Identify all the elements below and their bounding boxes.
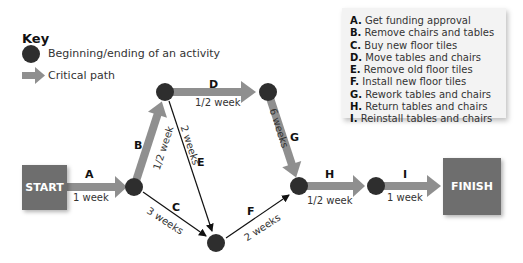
arrow-h xyxy=(307,175,365,197)
activity-d-duration: 1/2 week xyxy=(195,97,241,108)
node-3 xyxy=(259,83,277,101)
legend-item-i: I. Reinstall tables and chairs xyxy=(350,113,494,125)
activity-h-duration: 1/2 week xyxy=(307,195,353,206)
legend-item-g: G. Rework tables and chairs xyxy=(350,89,494,101)
legend-item-f: F. Install new floor tiles xyxy=(350,76,494,88)
legend-item-d: D. Move tables and chairs xyxy=(350,52,494,64)
node-2 xyxy=(156,83,174,101)
legend-item-c: C. Buy new floor tiles xyxy=(350,40,494,52)
legend-item-a: A. Get funding approval xyxy=(350,15,494,27)
activity-c-label: C xyxy=(172,201,180,214)
legend-item-e: E. Remove old floor tiles xyxy=(350,64,494,76)
key-title: Key xyxy=(22,31,49,46)
key-node-label: Beginning/ending of an activity xyxy=(48,47,220,60)
finish-box: FINISH xyxy=(443,158,501,215)
legend-item-b: B. Remove chairs and tables xyxy=(350,27,494,39)
key-node-icon xyxy=(22,45,40,63)
node-4 xyxy=(290,177,308,195)
activity-f-label: F xyxy=(247,205,255,218)
activity-a-label: A xyxy=(85,168,94,181)
activity-i-duration: 1 week xyxy=(387,192,423,203)
legend-item-h: H. Return tables and chairs xyxy=(350,101,494,113)
activity-legend: A. Get funding approval B. Remove chairs… xyxy=(342,8,506,118)
activity-h-label: H xyxy=(325,168,334,181)
activity-b-label: B xyxy=(134,139,142,152)
node-6 xyxy=(367,177,385,195)
start-box: START xyxy=(22,165,67,210)
node-1 xyxy=(125,178,143,196)
node-5 xyxy=(207,234,225,252)
activity-a-duration: 1 week xyxy=(73,192,109,203)
activity-d-label: D xyxy=(209,78,218,91)
key-critical-label: Critical path xyxy=(48,69,115,82)
activity-i-label: I xyxy=(403,168,407,181)
key-critical-arrow-icon xyxy=(22,67,45,84)
activity-g-label: G xyxy=(290,131,299,144)
